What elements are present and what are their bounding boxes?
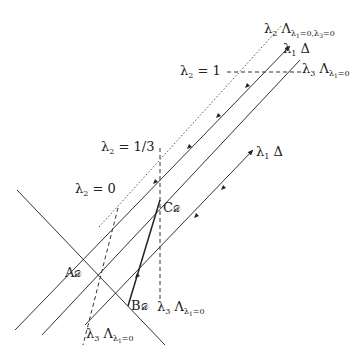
label-point-a: A𝒟 bbox=[65, 266, 81, 279]
delta-line-top bbox=[15, 46, 290, 330]
flow-arrows bbox=[135, 83, 250, 278]
label-lambda3-bottom-mid: λ3 Λλ1=0 bbox=[157, 300, 205, 313]
label-point-c: C𝒟 bbox=[163, 201, 180, 214]
label-lambda2-top: λ2 Λλ1=0,λ3=0 bbox=[264, 22, 335, 35]
label-lambda3-top: λ3 Λλ1=0 bbox=[302, 62, 350, 75]
label-point-b: B𝒟 bbox=[131, 299, 148, 312]
dashed-lambda2-0-left bbox=[83, 208, 118, 345]
label-lambda3-bottom-left: λ3 Λλ1=0 bbox=[86, 327, 134, 340]
anti-diagonal-line bbox=[17, 190, 165, 345]
label-delta-right: λ1 Δ bbox=[256, 145, 283, 158]
label-lambda2-eq-0: λ2 = 0 bbox=[75, 182, 116, 195]
segment-bc bbox=[128, 200, 160, 306]
label-lambda2-eq-1-3: λ2 = 1/3 bbox=[101, 140, 154, 153]
dotted-lambda2-line bbox=[99, 25, 282, 227]
lambda3-line bbox=[42, 60, 300, 335]
label-delta-top: λ1 Δ bbox=[283, 42, 310, 55]
label-lambda2-eq-1: λ2 = 1 bbox=[180, 64, 221, 77]
